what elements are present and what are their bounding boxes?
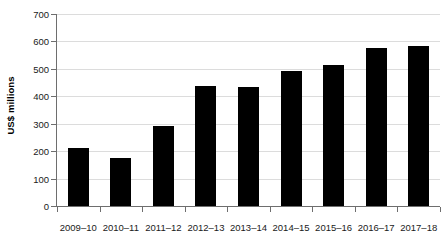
x-axis-tick-label: 2013–14 bbox=[230, 222, 267, 233]
x-axis-tick bbox=[312, 207, 313, 212]
y-axis-tick-label: 500 bbox=[3, 63, 49, 74]
x-axis-tick bbox=[100, 207, 101, 212]
x-axis-tick-label: 2016–17 bbox=[358, 222, 395, 233]
y-axis-tick-label: 300 bbox=[3, 118, 49, 129]
x-axis-tick bbox=[142, 207, 143, 212]
y-axis-tick-label: 0 bbox=[3, 201, 49, 212]
x-axis-tick-label: 2012–13 bbox=[187, 222, 224, 233]
y-axis-tick-label: 400 bbox=[3, 91, 49, 102]
x-axis-tick-label: 2017–18 bbox=[400, 222, 437, 233]
x-axis-tick-label: 2014–15 bbox=[273, 222, 310, 233]
bar-chart: US$ millions 0100200300400500600700 2009… bbox=[0, 0, 446, 243]
x-axis-tick bbox=[355, 207, 356, 212]
y-axis-tick-label: 600 bbox=[3, 36, 49, 47]
y-axis-tick-label: 200 bbox=[3, 146, 49, 157]
gridline bbox=[57, 14, 440, 15]
x-axis-tick bbox=[270, 207, 271, 212]
bar bbox=[323, 65, 344, 206]
bar bbox=[110, 158, 131, 206]
bar bbox=[153, 126, 174, 206]
x-axis-tick bbox=[397, 207, 398, 212]
x-axis-tick-label: 2010–11 bbox=[103, 222, 139, 233]
bar bbox=[238, 87, 259, 206]
bar bbox=[68, 148, 89, 206]
x-axis-tick-label: 2011–12 bbox=[145, 222, 181, 233]
x-axis-tick bbox=[57, 207, 58, 212]
x-axis-line bbox=[57, 206, 440, 207]
plot-area bbox=[57, 14, 440, 206]
x-axis-tick bbox=[185, 207, 186, 212]
gridline bbox=[57, 41, 440, 42]
bar bbox=[408, 46, 429, 206]
x-axis-tick bbox=[227, 207, 228, 212]
bar bbox=[281, 71, 302, 206]
y-axis-tick-label: 700 bbox=[3, 9, 49, 20]
bar bbox=[195, 86, 216, 206]
x-axis-tick bbox=[440, 207, 441, 212]
x-axis-tick-label: 2015–16 bbox=[315, 222, 352, 233]
y-axis-tick-label: 100 bbox=[3, 173, 49, 184]
x-axis-tick-label: 2009–10 bbox=[60, 222, 97, 233]
bar bbox=[366, 48, 387, 206]
